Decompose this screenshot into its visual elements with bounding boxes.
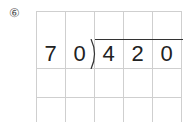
divisor-digit: 7 bbox=[36, 39, 65, 68]
dividend-digit: 0 bbox=[152, 39, 181, 68]
grid-line bbox=[36, 11, 182, 12]
grid-line bbox=[36, 97, 182, 98]
division-grid: 7 0 4 2 0 bbox=[36, 11, 182, 122]
grid-line bbox=[181, 11, 182, 122]
division-bracket-icon bbox=[89, 39, 99, 69]
dividend-digit: 2 bbox=[123, 39, 152, 68]
division-bar bbox=[95, 39, 183, 40]
grid-line bbox=[36, 68, 182, 69]
problem-number: ⑥ bbox=[9, 7, 20, 19]
